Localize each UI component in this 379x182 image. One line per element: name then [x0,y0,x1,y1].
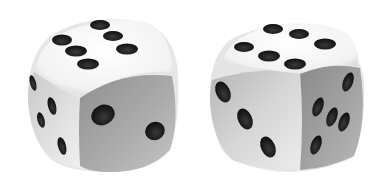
left-die [28,19,178,172]
dice-scene [0,0,379,182]
right-die [210,23,365,172]
